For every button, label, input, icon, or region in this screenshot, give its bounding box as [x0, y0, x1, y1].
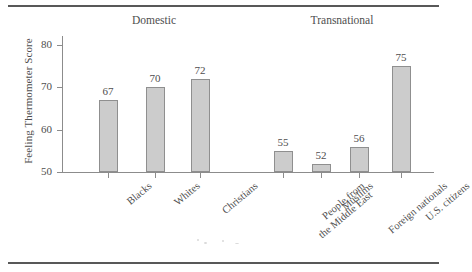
- y-axis-line: [62, 36, 63, 172]
- bar: [191, 79, 210, 173]
- bar-value-label: 75: [385, 51, 417, 63]
- x-axis-label-line: Whites: [172, 180, 202, 208]
- y-axis-title: Feeling Thermometer Score: [22, 21, 34, 181]
- x-axis-tick: [359, 172, 360, 178]
- x-axis-category-label: Blacks: [125, 180, 154, 207]
- y-axis-tick-label: 80: [41, 38, 52, 50]
- x-axis-tick: [283, 172, 284, 178]
- plot-area: 50607080 67707255525675 BlacksWhitesChri…: [62, 36, 434, 172]
- scan-artifact: [204, 242, 207, 244]
- x-axis-tick: [321, 172, 322, 178]
- y-axis-tick-label: 60: [41, 123, 52, 135]
- bar-value-label: 67: [92, 85, 124, 97]
- figure-bottom-rule: [8, 262, 439, 264]
- bar-value-label: 56: [343, 132, 375, 144]
- group-title-domestic: Domestic: [94, 14, 214, 26]
- bar: [392, 66, 411, 172]
- x-axis-category-label: Christians: [220, 180, 260, 216]
- x-axis-label-line: Christians: [220, 180, 260, 216]
- scan-artifact: [222, 240, 224, 242]
- group-title-transnational: Transnational: [282, 14, 402, 26]
- y-axis-tick-label: 70: [41, 80, 52, 92]
- scan-artifact: [235, 243, 239, 244]
- bar: [312, 164, 331, 173]
- bar-value-label: 52: [305, 149, 337, 161]
- x-axis-tick: [108, 172, 109, 178]
- x-axis-line: [62, 172, 434, 173]
- bar: [350, 147, 369, 173]
- y-axis-tick: 60: [57, 130, 62, 131]
- x-axis-tick: [155, 172, 156, 178]
- x-axis-tick: [200, 172, 201, 178]
- figure-top-rule: [8, 5, 439, 7]
- y-axis-tick-label: 50: [41, 165, 52, 177]
- bar-value-label: 70: [139, 72, 171, 84]
- bar-value-label: 72: [184, 64, 216, 76]
- x-axis-label-line: Blacks: [125, 180, 154, 207]
- y-axis-tick: 50: [57, 172, 62, 173]
- bar-value-label: 55: [267, 136, 299, 148]
- bar: [146, 87, 165, 172]
- scan-artifact: [197, 239, 199, 241]
- x-axis-tick: [401, 172, 402, 178]
- x-axis-category-label: Whites: [172, 180, 202, 208]
- y-axis-tick: 70: [57, 87, 62, 88]
- bar: [274, 151, 293, 172]
- y-axis-tick: 80: [57, 45, 62, 46]
- bar: [99, 100, 118, 172]
